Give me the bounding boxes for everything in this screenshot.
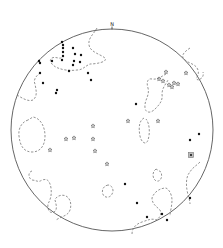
star-icon	[172, 81, 176, 85]
square-center-dot	[190, 154, 192, 156]
stereonet-figure: N	[0, 0, 223, 248]
contour-line	[50, 28, 105, 70]
star-icon	[72, 136, 76, 140]
contour-line	[139, 118, 149, 143]
star-icon	[156, 119, 160, 123]
star-icon	[105, 162, 109, 166]
star-icon	[126, 119, 130, 123]
dot-point	[189, 197, 191, 199]
star-icon	[184, 71, 188, 75]
dot-point	[56, 89, 58, 91]
dot-point	[189, 139, 191, 141]
star-icon	[91, 137, 95, 141]
dot-point	[135, 103, 137, 105]
dot-point	[51, 60, 53, 62]
star-icon	[48, 148, 52, 152]
dot-symbols	[38, 41, 200, 221]
star-icon	[161, 79, 165, 83]
dot-point	[87, 72, 89, 74]
density-contours	[17, 28, 203, 234]
star-icon	[164, 70, 168, 74]
dot-point	[42, 82, 44, 84]
dot-point	[161, 213, 163, 215]
contour-line	[102, 185, 113, 197]
dot-point	[198, 133, 200, 135]
contour-line	[183, 48, 204, 80]
dot-point	[62, 55, 64, 57]
dot-point	[124, 183, 126, 185]
primitive-circle	[11, 29, 213, 231]
star-icon	[64, 137, 68, 141]
dot-point	[39, 72, 41, 74]
dot-point	[68, 70, 70, 72]
dot-point	[73, 60, 75, 62]
dot-point	[146, 216, 148, 218]
north-label: N	[110, 21, 114, 27]
star-icon	[176, 82, 180, 86]
dot-point	[61, 41, 63, 43]
contour-line	[19, 117, 45, 152]
contour-line	[132, 188, 172, 234]
stereonet-canvas: N	[0, 0, 223, 248]
dot-point	[90, 79, 92, 81]
contour-line	[145, 74, 168, 112]
dot-point	[62, 44, 64, 46]
dot-point	[39, 62, 41, 64]
dot-point	[72, 47, 74, 49]
dot-point	[61, 59, 63, 61]
square-symbols	[189, 153, 194, 158]
dot-point	[79, 61, 81, 63]
dot-point	[166, 219, 168, 221]
contour-line	[153, 169, 162, 181]
dot-point	[72, 64, 74, 66]
star-icon	[91, 124, 95, 128]
dot-point	[62, 51, 64, 53]
dot-point	[62, 47, 64, 49]
dot-point	[80, 54, 82, 56]
dot-point	[136, 202, 138, 204]
star-icon	[93, 149, 97, 153]
dot-point	[55, 92, 57, 94]
dot-point	[74, 53, 76, 55]
star-icon	[170, 85, 174, 89]
star-symbols	[48, 70, 188, 166]
